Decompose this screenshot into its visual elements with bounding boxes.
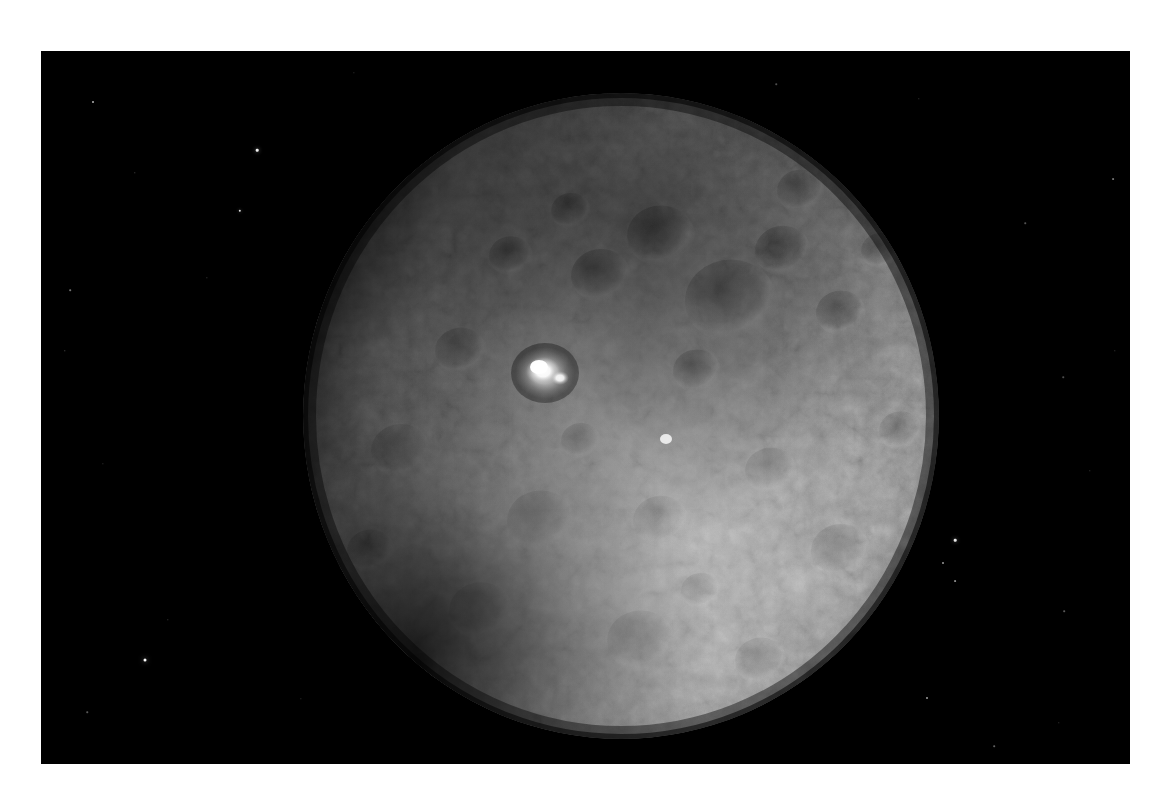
occator-bright-spots: [511, 343, 579, 403]
planet-layer: [41, 51, 1130, 764]
ceres-surface: [303, 93, 939, 739]
caption-strip: [41, 764, 1130, 805]
bright-spot-core: [530, 360, 548, 374]
vinalia-faculae: [551, 371, 569, 385]
space-photograph: [41, 51, 1130, 764]
ceres-disk-graphic: [41, 51, 1130, 764]
secondary-bright-spot: [660, 434, 672, 444]
image-canvas: [0, 0, 1167, 805]
